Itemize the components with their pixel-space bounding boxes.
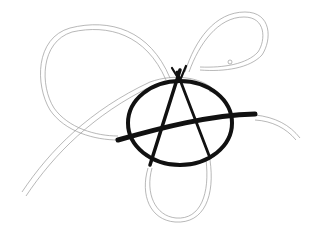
anarchy-knot-illustration [0,0,320,236]
crossbar-stroke [118,114,255,140]
drawing-canvas [0,0,320,236]
ribbon-loops [22,12,300,222]
